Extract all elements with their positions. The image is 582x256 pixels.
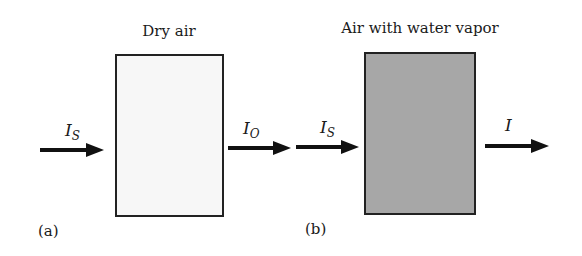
output-intensity-label-b: I (505, 115, 512, 138)
output-arrow-icon-a (228, 141, 291, 155)
panel-b-label: (b) (305, 220, 326, 238)
panel-a-title: Dry air (142, 22, 195, 40)
input-intensity-label-a: IS (65, 120, 80, 143)
panel-b-title: Air with water vapor (341, 19, 499, 37)
input-intensity-label-b: IS (320, 117, 335, 140)
output-arrow-icon-b (485, 139, 549, 153)
dry-air-box (115, 54, 224, 217)
panel-a-label: (a) (38, 222, 59, 240)
input-arrow-icon-b (296, 140, 359, 154)
water-vapor-box (364, 52, 476, 215)
input-arrow-icon-a (40, 143, 104, 157)
output-intensity-label-a: IO (243, 118, 260, 141)
